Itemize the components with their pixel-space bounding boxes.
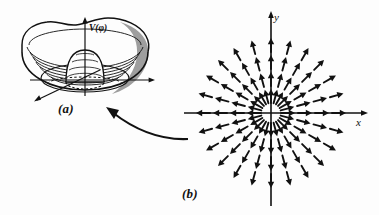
horizontal-axis-arrowhead: [149, 77, 155, 82]
vector-arrow-head: [255, 162, 261, 169]
vector-arrow-shaft: [256, 118, 263, 122]
vector-arrow-shaft: [297, 120, 305, 122]
vector-arrow-shaft: [246, 88, 252, 94]
caption-a: (a): [58, 101, 74, 117]
vector-arrow-shaft: [330, 129, 338, 131]
vector-arrow-shaft: [254, 83, 258, 90]
vector-arrow-shaft: [241, 96, 248, 100]
vector-arrow-shaft: [281, 116, 289, 118]
vector-field-axes: [184, 14, 364, 206]
vector-arrow-shaft: [293, 68, 297, 75]
vector-arrow-shaft: [278, 79, 280, 87]
vector-arrow-shaft: [245, 68, 249, 75]
vector-arrow-shaft: [262, 122, 266, 129]
vector-arrow-shaft: [287, 47, 289, 55]
vector-arrow-shaft: [226, 87, 233, 91]
vector-arrow-head: [268, 38, 274, 44]
vector-arrow-head: [337, 128, 344, 134]
vector-arrow-head: [268, 148, 274, 154]
vector-arrow-shaft: [309, 135, 316, 139]
vector-arrow-shaft: [241, 127, 248, 131]
connector-arrowhead: [106, 107, 119, 119]
vector-arrow-shaft: [302, 144, 308, 150]
vector-arrow-shaft: [281, 108, 289, 110]
vector-arrow-shaft: [237, 104, 245, 106]
vector-arrow-head: [215, 123, 222, 129]
vector-arrow-shaft: [297, 104, 305, 106]
vector-arrow-head: [304, 119, 311, 125]
vector-arrow-shaft: [256, 104, 263, 108]
vector-arrow-shaft: [245, 151, 249, 158]
vector-arrow-shaft: [254, 116, 262, 118]
vector-arrow-shaft: [262, 139, 264, 147]
vector-arrow-shaft: [234, 76, 240, 82]
vector-arrow-shaft: [246, 132, 252, 138]
vector-arrow-shaft: [222, 156, 228, 162]
vector-arrow-shaft: [258, 120, 264, 126]
vector-arrow-shaft: [324, 79, 331, 83]
y-axis-arrowhead: [268, 11, 274, 18]
vector-arrow-head: [273, 90, 279, 97]
vector-arrow-shaft: [226, 135, 233, 139]
vector-arrow-head: [281, 57, 287, 64]
connector-curve: [112, 112, 188, 139]
vector-arrow-shaft: [237, 166, 241, 173]
vertical-axis-arrowhead: [82, 17, 87, 24]
vector-arrow-shaft: [253, 172, 255, 180]
vector-arrow-head: [263, 129, 269, 136]
vector-arrow-shaft: [294, 96, 301, 100]
vector-arrow-head: [268, 182, 274, 188]
vector-arrow-head: [281, 162, 287, 169]
vector-arrow-head: [268, 55, 274, 61]
vector-arrow-head: [320, 97, 327, 103]
vector-arrow-head: [250, 41, 256, 48]
vector-arrow-shaft: [285, 83, 289, 90]
vector-arrow-head: [248, 105, 255, 111]
vector-arrow-shaft: [302, 166, 306, 173]
vector-arrow-head: [250, 179, 256, 186]
vector-arrow-shaft: [258, 156, 260, 164]
vector-arrow-shaft: [330, 95, 338, 97]
vector-arrow-shaft: [253, 47, 255, 55]
vector-arrow-head: [277, 146, 283, 153]
vector-arrow-head: [199, 92, 206, 98]
vector-arrow-head: [306, 110, 312, 116]
vector-arrow-head: [215, 97, 222, 103]
vector-arrow-head: [268, 72, 274, 78]
vector-arrow-head: [320, 123, 327, 129]
vector-arrow-shaft: [282, 156, 284, 164]
vector-arrow-head: [323, 110, 329, 116]
vector-arrow-shaft: [266, 96, 268, 104]
vector-arrow-shaft: [324, 144, 331, 148]
vector-arrow-shaft: [282, 63, 284, 71]
depth-axis-arrowhead: [34, 95, 41, 101]
vector-arrow-shaft: [205, 95, 213, 97]
vector-arrow-shaft: [290, 132, 296, 138]
vector-arrow-shaft: [274, 123, 276, 131]
vector-arrow-shaft: [309, 87, 316, 91]
vector-arrow-shaft: [262, 98, 266, 105]
vector-arrow-head: [199, 128, 206, 134]
vector-arrow-shaft: [211, 144, 218, 148]
vector-arrow-shaft: [221, 100, 229, 102]
vector-arrow-shaft: [280, 118, 287, 122]
vector-arrow-shaft: [287, 172, 289, 180]
vector-arrow-head: [213, 110, 219, 116]
vector-arrow-head: [337, 92, 344, 98]
vector-arrow-head: [231, 101, 238, 107]
vector-arrow-shaft: [278, 139, 280, 147]
vector-arrow-shaft: [234, 144, 240, 150]
vector-arrow-shaft: [211, 79, 218, 83]
vector-arrow-head: [259, 73, 265, 80]
vector-arrow-shaft: [302, 53, 306, 60]
bowl-inner-shading: [112, 22, 148, 94]
vector-arrow-shaft: [290, 88, 296, 94]
vector-arrow-head: [304, 101, 311, 107]
vector-arrow-shaft: [262, 79, 264, 87]
vector-arrow-head: [340, 110, 346, 116]
figure-root: V(φ) (a) y x (b): [0, 0, 379, 215]
caption-b: (b): [182, 186, 198, 202]
vector-arrow-shaft: [237, 120, 245, 122]
x-axis-arrowhead: [361, 110, 368, 116]
vector-arrow-shaft: [314, 64, 320, 70]
